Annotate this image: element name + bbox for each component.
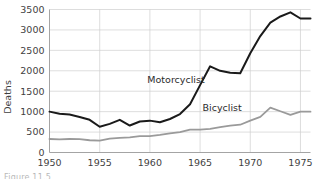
y-tick-label: 500 — [26, 126, 44, 137]
y-tick-label: 2500 — [20, 45, 44, 56]
x-tick-label: 1955 — [88, 157, 112, 168]
y-tick-label: 1000 — [20, 106, 44, 117]
x-tick-label: 1975 — [288, 157, 312, 168]
series-label-motorcyclist: Motorcyclist — [147, 74, 205, 85]
x-tick-label: 1950 — [37, 157, 61, 168]
x-tick-label: 1965 — [188, 157, 212, 168]
y-tick-label: 3500 — [20, 4, 44, 15]
y-tick-label: 2000 — [20, 65, 44, 76]
figure-caption: Figure 11.5 — [4, 173, 51, 179]
x-tick-label: 1970 — [238, 157, 262, 168]
y-axis-title: Deaths — [2, 80, 13, 114]
y-tick-label: 1500 — [20, 86, 44, 97]
figure-container: 0500100015002000250030003500 19501955196… — [0, 0, 318, 179]
series-label-bicyclist: Bicyclist — [203, 102, 242, 113]
x-tick-label: 1960 — [138, 157, 162, 168]
line-chart: 0500100015002000250030003500 19501955196… — [0, 0, 318, 179]
y-tick-label: 3000 — [20, 24, 44, 35]
